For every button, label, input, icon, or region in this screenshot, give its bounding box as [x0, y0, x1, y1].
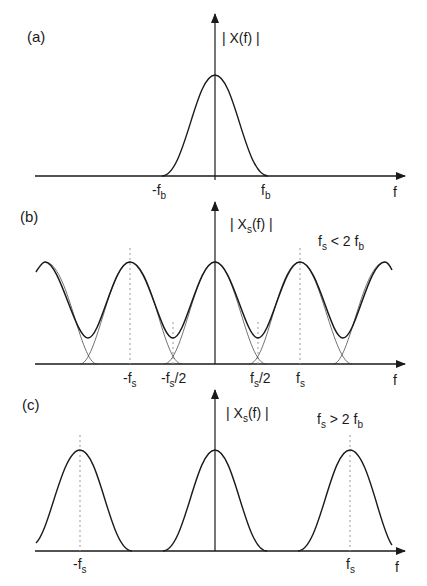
panel-label-c: (c): [22, 398, 40, 412]
y-axis-label-c: | Xs(f) |: [226, 406, 269, 422]
tick-neg-fs-c: -fs: [73, 557, 87, 573]
aliased-spectrum-curve: [36, 262, 392, 338]
replica-right: [298, 450, 392, 551]
tick-neg-fs-b: -fs: [123, 371, 137, 387]
tick-fs-b: fs: [296, 371, 305, 387]
condition-c: fs > 2 fb: [317, 412, 363, 428]
panel-b: [35, 202, 405, 364]
tick-neg-fs-half: -fs/2: [161, 371, 186, 387]
x-axis-label-b: f: [393, 373, 397, 387]
x-axis-label-a: f: [393, 185, 397, 199]
y-axis-label-b: | Xs(f) |: [230, 217, 273, 233]
tick-fb: fb: [261, 183, 270, 199]
replica-left: [36, 450, 132, 551]
panel-label-a: (a): [27, 30, 45, 44]
x-axis-label-c: f: [395, 560, 399, 574]
panel-a: [35, 14, 405, 180]
tick-neg-fb: -fb: [152, 183, 166, 199]
panel-label-b: (b): [20, 210, 38, 224]
tick-fs-c: fs: [346, 557, 355, 573]
tick-fs-half: fs/2: [250, 371, 271, 387]
condition-b: fs < 2 fb: [318, 234, 364, 250]
sampling-spectra-diagram: [0, 0, 427, 586]
y-axis-label-a: | X(f) |: [222, 31, 260, 45]
